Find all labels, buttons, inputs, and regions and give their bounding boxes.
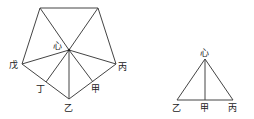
- spoke-top-right: [69, 8, 98, 50]
- center-point: [68, 49, 70, 51]
- triangle-label-mid: 甲: [200, 103, 209, 113]
- spoke-lower-left-mid: [46, 50, 69, 82]
- triangle-label-left: 乙: [172, 103, 181, 113]
- label-center: 心: [53, 41, 62, 51]
- spoke-right: [69, 50, 116, 64]
- geometry-diagram: 心 戊 丙 乙 丁 甲 心 乙 甲 丙: [0, 0, 254, 119]
- label-bottom: 乙: [64, 103, 73, 113]
- triangle-figure: 心 乙 甲 丙: [172, 48, 237, 113]
- label-lower-right-mid: 甲: [91, 84, 100, 94]
- pentagon-figure: 心 戊 丙 乙 丁 甲: [9, 8, 127, 113]
- spoke-lower-right-mid: [69, 50, 93, 82]
- triangle-label-apex: 心: [200, 48, 209, 58]
- spoke-left: [22, 50, 69, 64]
- label-left: 戊: [9, 59, 18, 70]
- label-right: 丙: [118, 62, 127, 72]
- triangle-label-right: 丙: [228, 103, 237, 113]
- label-lower-left-mid: 丁: [36, 84, 45, 94]
